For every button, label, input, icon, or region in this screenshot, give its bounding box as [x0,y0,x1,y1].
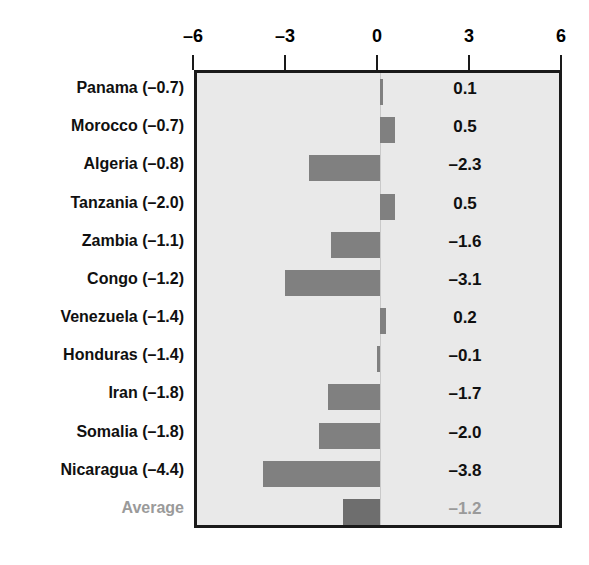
value-label: 0.5 [420,117,510,137]
value-label: –2.0 [420,423,510,443]
category-label: Somalia (–1.8) [0,423,184,441]
axis-tick-mark [376,55,378,70]
plot-frame [194,70,562,528]
bar [331,232,380,258]
bar [380,194,395,220]
axis-tick-mark [284,55,286,70]
category-label: Congo (–1.2) [0,270,184,288]
top-axis: –6–3036 [0,0,589,70]
bar [343,499,380,525]
category-label: Average [0,499,184,517]
category-label: Morocco (–0.7) [0,117,184,135]
bar [377,346,380,372]
value-label: –1.7 [420,384,510,404]
category-label: Nicaragua (–4.4) [0,461,184,479]
value-label: –1.6 [420,232,510,252]
bar [263,461,380,487]
category-label: Zambia (–1.1) [0,232,184,250]
value-label: 0.1 [420,79,510,99]
category-label: Iran (–1.8) [0,384,184,402]
axis-tick-label-0: 0 [372,26,382,47]
category-label: Honduras (–1.4) [0,346,184,364]
category-label: Tanzania (–2.0) [0,194,184,212]
bar [309,155,380,181]
value-label: 0.2 [420,308,510,328]
value-label: –3.8 [420,461,510,481]
value-label: –0.1 [420,346,510,366]
category-label: Algeria (–0.8) [0,155,184,173]
value-label: 0.5 [420,194,510,214]
bar [380,79,383,105]
bar-chart-figure: –6–3036 Panama (–0.7)0.1Morocco (–0.7)0.… [0,0,589,565]
value-label: –2.3 [420,155,510,175]
bar [328,384,380,410]
axis-tick-mark [560,55,562,70]
axis-tick-mark [192,55,194,70]
axis-tick-mark [468,55,470,70]
category-label: Venezuela (–1.4) [0,308,184,326]
axis-tick-label-6: 6 [556,26,566,47]
axis-tick-label-neg3: –3 [275,26,295,47]
category-label: Panama (–0.7) [0,79,184,97]
plot-area [197,73,559,525]
bar [319,423,380,449]
axis-tick-label-3: 3 [464,26,474,47]
value-label: –1.2 [420,499,510,519]
bar [380,117,395,143]
value-label: –3.1 [420,270,510,290]
axis-tick-label-neg6: –6 [183,26,203,47]
bar [285,270,380,296]
bar [380,308,386,334]
